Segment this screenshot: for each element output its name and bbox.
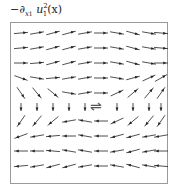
vector-arrow-icon (154, 47, 168, 50)
vector-arrow-icon (154, 164, 168, 167)
vector-arrow-icon (62, 92, 76, 95)
vector-arrow-icon (126, 46, 140, 50)
vector-arrow-icon (145, 88, 154, 99)
vector-arrow-icon (46, 46, 60, 50)
vector-arrow-icon (62, 164, 76, 168)
vector-arrow-icon (62, 149, 76, 152)
vector-arrow-icon (110, 62, 124, 65)
vector-arrow-icon (30, 135, 44, 138)
vector-arrow-icon (30, 77, 44, 80)
vector-arrow-icon (160, 103, 163, 111)
vector-arrow-icon (148, 103, 151, 111)
vector-arrow-icon (78, 76, 92, 79)
vector-arrow-icon (46, 76, 60, 79)
vector-arrow-icon (94, 92, 108, 95)
vector-arrow-icon (110, 150, 124, 153)
vector-arrow-icon (62, 76, 76, 79)
vector-arrow-icon (36, 103, 39, 111)
vector-arrow-icon (14, 76, 27, 81)
vector-arrow-icon (30, 165, 44, 168)
vector-arrow-icon (110, 47, 124, 50)
vector-arrow-icon (126, 149, 140, 153)
vector-arrow-icon (62, 135, 76, 138)
vector-arrow-icon (126, 76, 140, 80)
quiver-field: ⇌ (0, 0, 181, 193)
vector-arrow-icon (52, 103, 55, 111)
vector-arrow-icon (78, 149, 92, 152)
vector-arrow-icon (20, 103, 23, 111)
vector-arrow-icon (110, 77, 124, 80)
vector-arrow-icon (94, 47, 108, 50)
vector-arrow-icon (17, 87, 25, 98)
vector-arrow-icon (62, 46, 76, 50)
vector-arrow-icon (154, 32, 168, 35)
vector-arrow-icon (157, 87, 165, 98)
vector-arrow-icon (84, 103, 87, 111)
vector-arrow-icon (14, 150, 28, 153)
vector-arrow-icon (46, 31, 60, 35)
vector-arrow-icon (46, 61, 60, 65)
vector-arrow-icon (94, 62, 108, 65)
vector-arrow-icon (78, 31, 92, 34)
vector-arrow-icon (128, 89, 139, 98)
vector-arrow-icon (30, 46, 44, 49)
vector-arrow-icon (33, 88, 42, 99)
vector-arrow-icon (48, 117, 59, 126)
vector-arrow-icon (110, 32, 124, 35)
vector-arrow-icon (14, 31, 28, 34)
vector-arrow-icon (62, 31, 76, 35)
vector-arrow-icon (132, 103, 135, 111)
vector-arrow-icon (14, 46, 28, 49)
vector-arrow-icon (142, 62, 156, 65)
vector-arrow-icon (46, 135, 60, 138)
vector-arrow-icon (142, 47, 156, 50)
vector-arrow-icon (126, 31, 140, 35)
vector-arrow-icon (94, 77, 108, 80)
vector-arrow-icon (126, 61, 140, 65)
vector-arrow-icon (111, 118, 124, 124)
vector-arrow-icon (46, 149, 60, 152)
vector-arrow-icon (154, 150, 168, 153)
vector-arrow-icon (142, 135, 156, 138)
vector-arrow-icon (143, 75, 156, 81)
vector-arrow-icon (14, 62, 28, 65)
vector-arrow-icon (78, 91, 92, 94)
vector-arrow-icon (30, 150, 44, 153)
vector-arrow-icon (78, 119, 92, 122)
vector-arrow-icon (94, 32, 108, 35)
vector-arrow-icon (142, 150, 156, 153)
vector-arrow-icon (116, 103, 119, 111)
vector-arrow-icon (126, 164, 140, 168)
vector-arrow-icon (94, 150, 108, 153)
vector-arrow-icon (94, 165, 108, 168)
vector-arrow-icon (14, 165, 28, 168)
vector-arrow-icon (46, 164, 60, 168)
vector-arrow-icon (33, 116, 42, 127)
vector-arrow-icon (110, 134, 124, 138)
vector-arrow-icon (78, 46, 92, 49)
vector-arrow-icon (17, 115, 25, 126)
vector-arrow-icon (48, 89, 59, 98)
vector-arrow-icon (78, 134, 92, 137)
vector-arrow-icon (145, 116, 154, 127)
vector-arrow-icon (30, 61, 44, 64)
vector-arrow-icon (78, 61, 92, 64)
vector-arrow-icon (155, 75, 167, 82)
vector-arrow-icon (128, 117, 139, 126)
double-arrow-icon: ⇌ (90, 98, 102, 114)
vector-arrow-icon (68, 103, 71, 111)
vector-arrow-icon (154, 135, 168, 138)
vector-arrow-icon (142, 32, 156, 35)
vector-arrow-icon (154, 62, 168, 65)
vector-arrow-icon (14, 134, 27, 139)
vector-arrow-icon (62, 61, 76, 65)
vector-arrow-icon (78, 165, 92, 168)
vector-arrow-icon (157, 115, 165, 126)
vector-arrow-icon (94, 120, 108, 123)
vector-arrow-icon (142, 164, 156, 167)
vector-arrow-icon (62, 120, 76, 123)
vector-arrow-icon (30, 31, 44, 34)
vector-arrow-icon (111, 90, 124, 96)
vector-arrow-icon (110, 164, 124, 167)
vector-arrow-icon (94, 135, 108, 138)
